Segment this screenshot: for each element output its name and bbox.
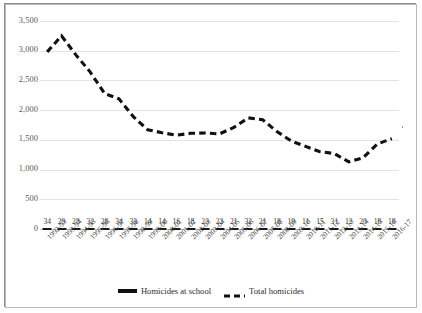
legend-item-total-homicides: Total homicides [224,286,304,296]
solid-line-swatch-icon [118,289,137,292]
y-axis-tick-label: 3,000 [4,45,38,54]
y-axis-tick-label: 2,000 [4,105,38,114]
legend-label-total-homicides: Total homicides [249,286,304,296]
legend-label-homicides-at-school: Homicides at school [141,286,211,296]
school-homicide-value-label: 34 [43,217,51,226]
chart-legend: Homicides at school Total homicides [0,286,422,296]
chart-figure: 05001,0001,5002,0002,5003,0003,500 34292… [0,0,422,313]
dashed-line-swatch-icon [224,290,245,293]
y-axis-tick-label: 0 [4,224,38,233]
y-axis-tick-label: 500 [4,194,38,203]
x-axis: 1992-931993-941994-951995-961996-971997-… [40,233,399,291]
page-artifact-mark [402,126,403,128]
school-homicides-markers: 3429283228343314141618232221322118191115… [40,21,399,229]
legend-item-homicides-at-school: Homicides at school [118,286,211,296]
y-axis: 05001,0001,5002,0002,5003,0003,500 [0,21,38,229]
y-axis-tick-label: 1,000 [4,164,38,173]
y-axis-tick-label: 1,500 [4,134,38,143]
y-axis-tick-label: 3,500 [4,16,38,25]
y-axis-tick-label: 2,500 [4,75,38,84]
